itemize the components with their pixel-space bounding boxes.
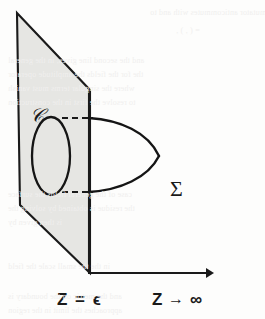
z-axis-arrowhead xyxy=(206,268,214,278)
surface-sigma-lower-branch xyxy=(89,156,159,192)
axis-right-label-limit: ∞ xyxy=(190,290,202,309)
plane-polygon xyxy=(17,13,90,273)
geometry-figure: 𝒞 Σ Z = ϵ Z → ∞ xyxy=(0,0,265,319)
axis-left-label: Z = ϵ xyxy=(57,290,102,309)
axis-right-label-arrow: → xyxy=(168,290,184,307)
surface-sigma-upper-branch xyxy=(89,118,159,156)
axis-right-label-var: Z xyxy=(152,290,162,309)
figure-container: 𝒞 Σ Z = ϵ Z → ∞ the commutator anticommu… xyxy=(0,0,265,319)
surface-sigma-label: Σ xyxy=(170,176,183,201)
